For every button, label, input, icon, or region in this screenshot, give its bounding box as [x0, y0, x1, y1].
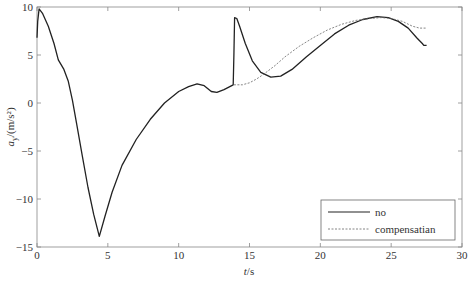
- y-tick-label: 5: [28, 49, 34, 61]
- x-tick-label: 0: [34, 249, 40, 261]
- legend-label-compensatian: compensatian: [375, 223, 436, 235]
- x-tick-label: 20: [315, 249, 327, 261]
- y-axis-label: ay/(m/s²): [4, 107, 19, 146]
- x-axis-label: t/s: [244, 265, 254, 277]
- x-tick-label: 10: [173, 249, 185, 261]
- x-tick-label: 30: [457, 249, 469, 261]
- x-tick-label: 25: [386, 249, 398, 261]
- y-tick-label: −15: [16, 241, 34, 253]
- y-tick-label: −5: [21, 145, 33, 157]
- y-tick-label: 10: [22, 1, 34, 13]
- legend: no compensatian: [321, 200, 455, 240]
- x-tick-label: 15: [244, 249, 256, 261]
- chart: 051015202530 −15−10−50510 t/s ay/(m/s²) …: [0, 0, 469, 284]
- legend-label-no: no: [375, 206, 387, 218]
- y-tick-label: 0: [28, 97, 34, 109]
- y-tick-label: −10: [16, 193, 34, 205]
- x-tick-label: 5: [105, 249, 111, 261]
